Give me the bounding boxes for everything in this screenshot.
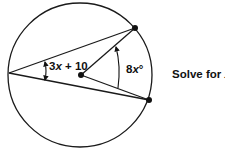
inscribed-angle-arc [45,62,46,80]
central-angle-arc [116,47,119,88]
problem-prompt: Solve for x° [172,68,225,80]
center-point [78,72,84,78]
radius-lower [81,75,149,100]
central-angle-label: 8x° [126,63,144,75]
bottom-point [146,97,152,103]
top-point [132,25,138,31]
circle-angle-diagram: 3x + 10 8x° Solve for x° [0,0,225,148]
inscribed-angle-label: 3x + 10 [49,60,88,72]
